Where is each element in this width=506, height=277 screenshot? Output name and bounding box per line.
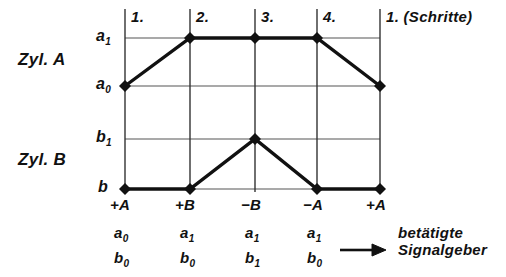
signal-top-4: a1: [307, 224, 322, 244]
node-b-step5: [374, 183, 386, 195]
axis-label-a0-sub: 0: [105, 84, 111, 95]
axis-label-a0: a0: [96, 75, 111, 95]
arrow-right-icon: [340, 244, 386, 256]
axis-label-a1: a1: [96, 27, 111, 47]
command-label-4: −A: [303, 196, 323, 213]
signal-top-3-base: a: [245, 224, 254, 241]
signals-caption-line1: betätigte: [398, 224, 487, 241]
signal-bottom-1: b0: [114, 249, 129, 269]
signals-caption: betätigte Signalgeber: [398, 224, 487, 259]
axis-label-b1-base: b: [96, 128, 106, 145]
grid-horizontal-lines: [125, 38, 380, 189]
step-number-4: 4.: [323, 8, 336, 25]
signal-top-1-base: a: [114, 224, 123, 241]
signal-top-4-base: a: [307, 224, 316, 241]
command-label-2: +B: [175, 196, 195, 213]
cylinder-a-label: Zyl. A: [18, 50, 65, 70]
signal-bottom-2-sub: 0: [189, 258, 195, 269]
step-number-3: 3.: [261, 8, 274, 25]
axis-label-b0: b: [98, 178, 108, 196]
signal-top-3: a1: [245, 224, 260, 244]
axis-label-a1-sub: 1: [105, 36, 111, 47]
signal-top-2-sub: 1: [189, 233, 195, 244]
axis-label-a0-base: a: [96, 75, 105, 92]
command-label-3: −B: [241, 196, 261, 213]
step-number-1: 1.: [131, 8, 144, 25]
command-label-5: +A: [366, 196, 386, 213]
signal-bottom-2: b0: [180, 249, 195, 269]
nodes-cylinder-b: [119, 133, 386, 195]
signal-top-3-sub: 1: [254, 233, 260, 244]
signal-bottom-4-sub: 0: [316, 258, 322, 269]
node-b-step1: [119, 183, 131, 195]
signal-top-1: a0: [114, 224, 129, 244]
signal-bottom-3-sub: 1: [254, 258, 260, 269]
signals-caption-line2: Signalgeber: [398, 241, 487, 258]
step-number-5-schritte: 1. (Schritte): [386, 8, 472, 25]
signal-top-2-base: a: [180, 224, 189, 241]
axis-label-a1-base: a: [96, 27, 105, 44]
trace-cylinder-a: [125, 38, 380, 86]
signal-bottom-1-sub: 0: [123, 258, 129, 269]
signal-bottom-4: b0: [307, 249, 322, 269]
signal-top-1-sub: 0: [123, 233, 129, 244]
node-a-step3: [249, 32, 261, 44]
axis-label-b1: b1: [96, 128, 112, 148]
trace-cylinder-b: [125, 139, 380, 189]
signal-top-4-sub: 1: [316, 233, 322, 244]
signal-bottom-3: b1: [245, 249, 260, 269]
signal-top-2: a1: [180, 224, 195, 244]
command-label-1: +A: [110, 196, 130, 213]
cylinder-b-label: Zyl. B: [18, 150, 66, 170]
diagram-canvas: Zyl. A Zyl. B a1 a0 b1 b 1. 2. 3. 4. 1. …: [0, 0, 506, 277]
axis-label-b1-sub: 1: [106, 137, 112, 148]
step-number-2: 2.: [196, 8, 209, 25]
